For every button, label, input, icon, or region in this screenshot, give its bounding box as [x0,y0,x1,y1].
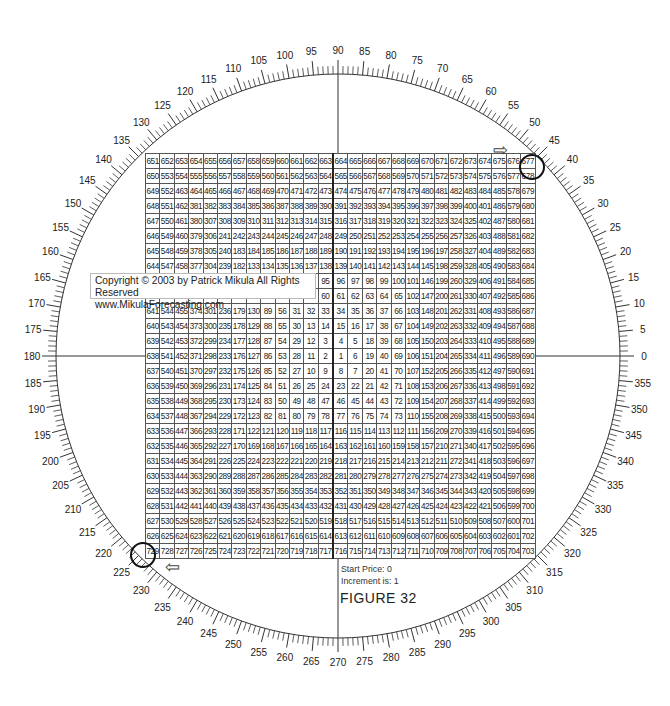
grid-cell: 129 [246,319,260,334]
grid-cell: 523 [261,514,275,529]
grid-cell: 417 [477,439,491,454]
grid-cell: 593 [506,409,520,424]
minor-tick [572,514,579,518]
grid-cell: 257 [449,229,463,244]
minor-tick [155,131,160,137]
grid-cell: 11 [304,349,318,364]
grid-cell: 242 [232,229,246,244]
grid-cell: 419 [477,469,491,484]
grid-cell: 610 [377,529,391,544]
grid-cell: 172 [232,409,246,424]
minor-tick [425,624,427,632]
grid-cell: 188 [304,244,318,259]
grid-cell: 584 [506,274,520,289]
degree-label: 0 [641,351,647,362]
grid-cell: 570 [406,169,420,184]
minor-tick [49,376,57,377]
grid-cell: 581 [506,229,520,244]
grid-cell: 351 [348,484,362,499]
grid-cell: 255 [420,229,434,244]
grid-cell: 27 [289,364,303,379]
grid-cell: 550 [160,214,174,229]
grid-cell: 325 [463,214,477,229]
grid-cell: 591 [506,379,520,394]
grid-cell: 565 [333,169,348,184]
grid-cell: 156 [420,424,434,439]
grid-cell: 348 [391,484,405,499]
minor-tick [273,73,275,81]
grid-cell: 68 [391,334,405,349]
grid-row: 6335364473662932281711221211201191181171… [146,424,536,439]
grid-cell: 429 [362,499,376,514]
minor-tick [98,514,105,518]
grid-cell: 96 [333,274,348,289]
major-tick [457,88,463,101]
minor-tick [140,144,145,150]
minor-tick [89,207,96,211]
grid-cell: 107 [406,364,420,379]
minor-tick [51,316,59,317]
grid-cell: 645 [146,244,160,259]
grid-cell: 536 [160,424,174,439]
minor-tick [303,636,304,644]
minor-tick [253,626,255,634]
major-tick [237,78,242,91]
grid-cell: 250 [348,229,362,244]
minor-tick [596,238,603,241]
grid-cell: 320 [391,214,405,229]
minor-tick [470,100,474,107]
grid-cell: 425 [420,499,434,514]
grid-cell: 17 [362,319,376,334]
grid-cell: 464 [189,184,203,199]
grid-cell: 508 [477,514,491,529]
minor-tick [50,390,58,391]
major-tick [569,518,580,526]
grid-cell: 169 [246,439,260,454]
grid-cell: 105 [406,334,420,349]
degree-label: 310 [526,585,543,596]
degree-label: 335 [607,480,624,491]
minor-tick [527,140,532,146]
grid-cell: 500 [492,409,506,424]
grid-cell: 590 [506,364,520,379]
grid-cell: 48 [304,394,318,409]
grid-cell: 127 [246,349,260,364]
minor-tick [244,623,247,631]
grid-cell: 354 [304,484,318,499]
grid-cell: 679 [521,184,535,199]
minor-tick [492,593,496,600]
grid-cell: 276 [406,469,420,484]
grid-cell: 402 [477,214,491,229]
grid-cell: 19 [362,349,376,364]
grid-cell: 75 [362,409,376,424]
grid-cell: 338 [463,409,477,424]
grid-cell: 220 [304,454,318,469]
grid-cell: 369 [189,379,203,394]
minor-tick [541,552,547,558]
grid-cell: 80 [289,409,303,424]
minor-tick [599,462,606,465]
minor-tick [61,271,69,273]
grid-cell: 213 [406,454,420,469]
grid-cell: 305 [203,244,217,259]
minor-tick [206,607,210,614]
left-arrow-icon: ⇦ [165,558,180,576]
grid-cell: 407 [477,289,491,304]
minor-tick [98,194,105,198]
major-tick [434,78,439,91]
minor-tick [308,636,309,644]
minor-tick [614,415,622,417]
grid-cell: 487 [492,214,506,229]
grid-cell: 13 [304,319,318,334]
minor-tick [512,578,517,584]
grid-cell: 485 [492,184,506,199]
grid-cell: 720 [275,544,289,559]
grid-cell: 312 [275,214,289,229]
grid-cell: 326 [463,229,477,244]
info-block: Start Price: 0 Increment is: 1 [341,563,399,587]
major-tick [213,88,219,101]
minor-tick [466,98,470,105]
minor-tick [298,69,299,77]
minor-tick [53,301,61,303]
grid-cell: 646 [146,229,160,244]
